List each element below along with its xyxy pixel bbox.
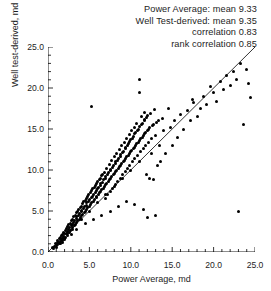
data-point: [125, 137, 128, 140]
x-tick-label: 20.0: [194, 261, 234, 270]
data-point: [138, 78, 141, 81]
x-tick-label: 25.0: [235, 261, 271, 270]
data-point: [202, 95, 205, 98]
annotation-line-well-test-derived: Well Test-derived: mean 9.35: [136, 16, 257, 28]
x-tick-label: 5.0: [69, 261, 109, 270]
data-point: [136, 154, 139, 157]
statistics-annotation: Power Average: mean 9.33 Well Test-deriv…: [136, 4, 257, 50]
data-point: [108, 163, 111, 166]
data-point: [138, 91, 141, 94]
data-point: [122, 150, 125, 153]
data-point: [249, 96, 252, 99]
data-point: [116, 180, 119, 183]
data-point: [196, 115, 199, 118]
y-axis-title: Well test-derived, md: [10, 3, 20, 87]
data-point: [125, 200, 128, 203]
data-point: [148, 177, 151, 180]
data-point: [92, 218, 95, 221]
data-point: [179, 113, 182, 116]
data-point: [239, 62, 242, 65]
data-point: [129, 169, 132, 172]
data-point: [167, 107, 170, 110]
data-point: [124, 170, 127, 173]
data-point: [182, 128, 185, 131]
y-tick-label: 10.0: [4, 166, 44, 175]
data-point: [161, 117, 164, 120]
data-point: [219, 80, 222, 83]
data-point: [128, 133, 131, 136]
x-axis-title: Power Average, md: [48, 274, 255, 284]
data-point: [229, 84, 232, 87]
data-point: [113, 185, 116, 188]
data-point: [121, 177, 124, 180]
data-point: [142, 208, 145, 211]
data-point: [146, 216, 149, 219]
data-point: [141, 122, 144, 125]
x-tick-label: 15.0: [152, 261, 192, 270]
data-point: [132, 135, 135, 138]
data-point: [154, 214, 157, 217]
data-point: [169, 126, 172, 129]
data-point: [147, 141, 150, 144]
x-tick-label: 10.0: [111, 261, 151, 270]
data-point: [104, 197, 107, 200]
data-point: [109, 190, 112, 193]
data-point: [138, 160, 141, 163]
data-point: [245, 68, 248, 71]
x-tick-label: 0.0: [28, 261, 68, 270]
y-tick-label: 5.0: [4, 207, 44, 216]
data-point: [80, 218, 83, 221]
data-point: [123, 141, 126, 144]
data-point: [199, 107, 202, 110]
identity-reference-line: [48, 47, 255, 252]
data-point: [109, 210, 112, 213]
data-point: [209, 85, 212, 88]
data-point: [55, 246, 58, 249]
data-point: [176, 136, 179, 139]
data-point: [143, 111, 146, 114]
annotation-line-correlation: correlation 0.83: [136, 27, 257, 39]
data-point: [237, 210, 240, 213]
axes-and-reference-line: [48, 47, 255, 252]
data-point: [171, 144, 174, 147]
data-point: [84, 222, 87, 225]
y-tick-label: 0.0: [4, 248, 44, 257]
data-point: [142, 147, 145, 150]
annotation-line-power-average: Power Average: mean 9.33: [136, 4, 257, 16]
data-point: [133, 126, 136, 129]
data-point: [88, 210, 91, 213]
y-tick-label: 15.0: [4, 125, 44, 134]
data-point: [70, 233, 73, 236]
scatter-plot-figure: Power Average: mean 9.33 Well Test-deriv…: [0, 0, 271, 291]
data-point: [145, 173, 148, 176]
plot-area: 0.05.010.015.020.025.0 0.05.010.015.020.…: [48, 47, 255, 252]
data-point: [118, 148, 121, 151]
x-axis-tick-labels: 0.05.010.015.020.025.0: [48, 252, 255, 272]
